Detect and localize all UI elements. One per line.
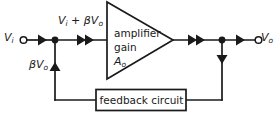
amp-output-arrow-icon-b (196, 35, 205, 46)
feedback-signal-subscript: o (44, 63, 49, 72)
input-voltage-subscript: i (12, 36, 14, 45)
summing-term-b: βV (84, 14, 99, 27)
amplifier-gain-symbol: A (114, 55, 122, 68)
summing-operator: + (68, 14, 84, 27)
feedback-signal-label: βVo (29, 58, 48, 72)
feedback-amplifier-diagram: Vi Vo Vi + βVo βVo amplifier gain Ao fee… (0, 0, 279, 126)
output-voltage-label: Vo (261, 31, 273, 45)
summing-term-b-subscript: o (98, 19, 103, 28)
summing-node-junction-dot (52, 37, 59, 44)
output-junction-dot (219, 37, 226, 44)
output-voltage-symbol: V (261, 31, 269, 44)
output-arrow-icon (236, 35, 245, 46)
feedback-circuit-label: feedback circuit (97, 90, 186, 110)
summing-term-a: V (58, 14, 66, 27)
amplifier-label-line-2: gain (114, 41, 137, 53)
input-terminal-circle-icon (20, 37, 27, 44)
feedback-up-arrow-icon (50, 62, 61, 71)
amplifier-gain-subscript: o (122, 60, 127, 69)
output-voltage-subscript: o (269, 36, 274, 45)
feedback-down-arrow-icon (217, 55, 228, 64)
amplifier-label-line-1: amplifier (114, 27, 161, 39)
summing-node-signal-label: Vi + βVo (58, 14, 103, 28)
input-voltage-symbol: V (4, 31, 12, 44)
input-arrow-icon (38, 35, 47, 46)
summing-arrow-icon-a (77, 35, 86, 46)
amp-output-arrow-icon-a (188, 35, 197, 46)
input-voltage-label: Vi (4, 31, 14, 45)
amplifier-gain-symbol-label: Ao (114, 55, 126, 69)
summing-arrow-icon-b (85, 35, 94, 46)
feedback-signal-symbol: βV (29, 58, 44, 71)
